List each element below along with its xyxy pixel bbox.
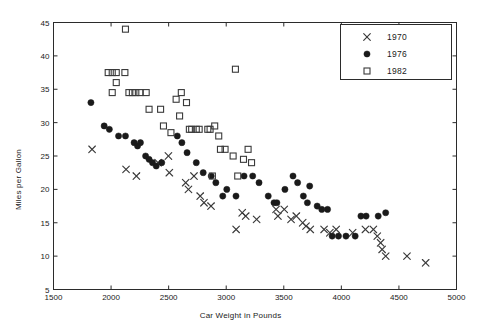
data-point xyxy=(377,239,384,246)
x-tick-label: 2500 xyxy=(160,293,178,302)
data-point xyxy=(122,133,128,139)
data-point xyxy=(422,260,429,267)
data-point xyxy=(282,186,288,192)
data-point xyxy=(179,140,185,146)
series-1982 xyxy=(105,26,254,179)
data-point xyxy=(197,193,204,200)
y-tick-label: 15 xyxy=(30,218,50,227)
y-tick-label: 45 xyxy=(30,18,50,27)
data-point xyxy=(249,160,255,166)
data-point xyxy=(115,133,121,139)
data-point xyxy=(230,153,236,159)
data-point xyxy=(106,126,112,132)
data-point xyxy=(324,206,330,212)
x-tick-label: 3500 xyxy=(275,293,293,302)
data-point xyxy=(166,169,173,176)
y-axis-label: Miles per Gallon xyxy=(14,149,23,210)
legend-label: 1976 xyxy=(375,49,407,59)
data-point xyxy=(233,193,239,199)
data-point xyxy=(404,253,411,260)
y-tick-label: 20 xyxy=(30,185,50,194)
data-point xyxy=(182,179,189,186)
data-point xyxy=(153,163,159,169)
scatter-plot-figure: Car Weight in Pounds Miles per Gallon 15… xyxy=(0,0,481,333)
data-point xyxy=(275,213,282,220)
data-point xyxy=(137,140,143,146)
data-point xyxy=(363,213,369,219)
data-point xyxy=(370,226,377,233)
data-point xyxy=(224,186,230,192)
data-point xyxy=(178,90,184,96)
x-axis-label: Car Weight in Pounds xyxy=(0,311,481,320)
x-tick-label: 3000 xyxy=(217,293,235,302)
x-tick-label: 4500 xyxy=(390,293,408,302)
data-point xyxy=(191,173,198,180)
data-point xyxy=(146,106,152,112)
data-point xyxy=(109,70,115,76)
data-point xyxy=(245,146,251,152)
data-point xyxy=(208,203,215,210)
data-point xyxy=(319,206,325,212)
data-point xyxy=(235,173,241,179)
legend-entry-1982: 1982 xyxy=(341,63,451,79)
data-point xyxy=(105,70,111,76)
data-point xyxy=(250,173,256,179)
data-point xyxy=(232,66,238,72)
data-point xyxy=(160,123,166,129)
y-tick-label: 5 xyxy=(30,285,50,294)
data-point xyxy=(205,126,211,132)
data-point xyxy=(290,173,296,179)
data-point xyxy=(362,226,369,233)
data-point xyxy=(88,100,94,106)
data-point xyxy=(375,213,381,219)
data-point xyxy=(133,173,140,180)
legend-label: 1982 xyxy=(375,66,407,76)
data-point xyxy=(216,133,222,139)
data-point xyxy=(186,126,192,132)
data-point xyxy=(173,96,179,102)
data-point xyxy=(122,26,128,32)
data-point xyxy=(241,173,247,179)
legend-entry-1970: 1970 xyxy=(341,29,451,45)
y-tick-label: 10 xyxy=(30,252,50,261)
y-tick-label: 30 xyxy=(30,118,50,127)
data-point xyxy=(158,106,164,112)
data-point xyxy=(143,90,149,96)
data-point xyxy=(109,90,115,96)
data-point xyxy=(174,133,180,139)
data-point xyxy=(168,130,174,136)
data-point xyxy=(159,160,165,166)
data-point xyxy=(343,233,349,239)
y-tick-label: 40 xyxy=(30,51,50,60)
data-point xyxy=(281,206,288,213)
data-point xyxy=(183,100,189,106)
x-tick-label: 4000 xyxy=(332,293,350,302)
data-point xyxy=(184,150,190,156)
data-point xyxy=(122,70,128,76)
x-tick-label: 5000 xyxy=(448,293,466,302)
data-point xyxy=(352,233,358,239)
series-1976 xyxy=(88,100,389,240)
data-point xyxy=(185,186,192,193)
data-point xyxy=(307,183,313,189)
data-point xyxy=(253,216,260,223)
data-point xyxy=(201,199,208,206)
data-point xyxy=(220,193,226,199)
data-point xyxy=(200,170,206,176)
data-point xyxy=(274,200,280,206)
legend: 197019761982 xyxy=(340,24,452,80)
data-point xyxy=(233,226,240,233)
data-point xyxy=(329,233,335,239)
data-point xyxy=(383,210,389,216)
series-1970 xyxy=(89,146,429,266)
data-point xyxy=(295,180,301,186)
legend-entry-1976: 1976 xyxy=(341,46,451,62)
data-point xyxy=(300,193,306,199)
y-tick-label: 25 xyxy=(30,152,50,161)
data-point xyxy=(177,113,183,119)
data-point xyxy=(304,200,310,206)
data-point xyxy=(273,206,280,213)
data-point xyxy=(242,213,249,220)
data-point xyxy=(240,156,246,162)
data-point xyxy=(333,226,340,233)
